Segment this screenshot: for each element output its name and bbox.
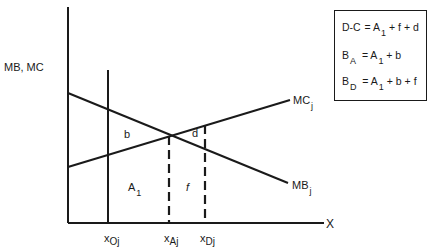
tick-subscript: Oj [110, 236, 120, 247]
legend-box: D-C = A1 + f + d BA = A1 + b BD = A1 + b… [334, 10, 427, 101]
eq-rest: + b + f [387, 75, 417, 87]
tick-base: x [104, 232, 110, 244]
mb-label-text: MB [292, 179, 309, 191]
x-aj-tick-label: xAj [164, 233, 178, 244]
mb-curve-label: MBj [292, 180, 312, 191]
eq-a-sub: 1 [381, 28, 386, 38]
eq-a: A [373, 21, 380, 33]
eq-lhs-sub: A [350, 56, 356, 66]
region-d-label: d [192, 128, 198, 139]
legend-eq-dc: D-C = A1 + f + d [342, 21, 419, 33]
x-axis-label: X [326, 218, 334, 230]
mb-label-subscript: j [310, 186, 312, 196]
a1-subscript: 1 [136, 188, 141, 198]
mc-curve [68, 100, 290, 167]
eq-lhs: D-C [342, 21, 361, 33]
mb-curve [68, 93, 288, 183]
tick-subscript: Aj [170, 236, 179, 247]
eq-lhs: B [342, 75, 349, 87]
tick-base: x [164, 232, 170, 244]
a1-base: A [128, 181, 135, 193]
mc-label-subscript: j [311, 101, 313, 111]
x-dj-tick-label: xDj [200, 233, 215, 244]
eq-a-sub: 1 [378, 56, 383, 66]
eq-sign: = [362, 75, 368, 87]
eq-sign: = [362, 49, 368, 61]
y-axis-label: MB, MC [4, 62, 44, 73]
legend-eq-bd: BD = A1 + b + f [342, 75, 417, 87]
tick-base: x [200, 232, 206, 244]
legend-eq-ba: BA = A1 + b [342, 49, 401, 61]
region-a1-label: A1 [128, 182, 141, 193]
eq-lhs: B [342, 49, 349, 61]
region-f-label: f [186, 182, 189, 193]
eq-rest: + b [386, 49, 401, 61]
region-b-label: b [124, 129, 130, 140]
tick-subscript: Dj [206, 236, 215, 247]
eq-a: A [371, 75, 378, 87]
eq-rest: + f + d [389, 21, 419, 33]
mc-curve-label: MCj [293, 95, 313, 106]
eq-sign: = [365, 21, 371, 33]
eq-a-sub: 1 [379, 82, 384, 92]
x-oj-tick-label: xOj [104, 233, 120, 244]
eq-a: A [370, 49, 377, 61]
mc-label-text: MC [293, 94, 310, 106]
eq-lhs-sub: D [350, 82, 357, 92]
